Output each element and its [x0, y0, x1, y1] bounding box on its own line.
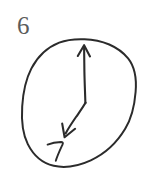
clock-hand-down-left-arrowhead [62, 124, 75, 138]
item-index-label: 6 [17, 13, 30, 38]
clock-hand-up-group [78, 45, 90, 103]
clock-hour-mark-7-glyph [48, 142, 63, 161]
clock-hour-mark-7-group [48, 142, 63, 161]
clock-dial-circle [22, 39, 136, 167]
clock-hand-up-shaft [84, 47, 85, 104]
clock-sketch-figure: 6 [0, 0, 156, 174]
clock-hand-down-left-group [62, 103, 85, 138]
clock-dial-group [22, 39, 136, 167]
